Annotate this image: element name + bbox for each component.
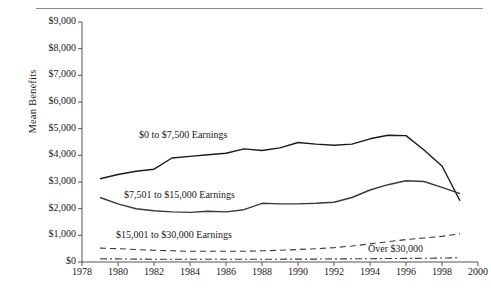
- series-label-over-30000: Over $30,000: [368, 243, 423, 254]
- x-tick-marks: [82, 262, 478, 266]
- y-tick-marks: [78, 22, 82, 262]
- axis-lines: [82, 22, 478, 262]
- series-label-0-7500: $0 to $7,500 Earnings: [139, 129, 227, 140]
- series-line-3: [100, 258, 460, 260]
- chart-figure: Mean Benefits $0$1,000$2,000$3,000$4,000…: [0, 0, 491, 292]
- series-label-15001-30000: $15,001 to $30,000 Earnings: [116, 229, 232, 240]
- series-label-7501-15000: $7,501 to $15,000 Earnings: [124, 189, 235, 200]
